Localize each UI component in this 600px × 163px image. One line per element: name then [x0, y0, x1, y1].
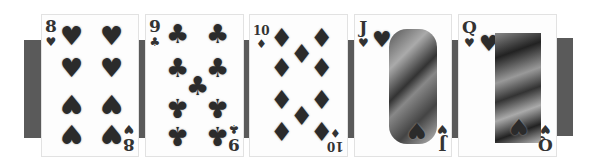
heart-icon: ♥	[100, 91, 123, 117]
card-jack-hearts: J♥ ♥ ♥ J♥	[354, 14, 452, 157]
diamond-icon: ♦	[270, 55, 293, 81]
club-icon: ♣	[166, 95, 189, 121]
club-icon: ♣	[166, 123, 189, 149]
card-8-hearts: 8♥ ♥ ♥ ♥ ♥ ♥ ♥ ♥ ♥ 8♥	[41, 14, 139, 157]
club-icon: ♣	[206, 21, 229, 47]
diamond-icon: ♦	[310, 87, 333, 113]
diamond-icon: ♦	[270, 119, 293, 145]
card-9-clubs: 9♣ ♣ ♣ ♣ ♣ ♣ ♣ ♣ ♣ ♣ 9♣	[145, 14, 244, 157]
card-index-top: 8♥	[45, 18, 57, 48]
card-index-bottom: 10♦	[327, 127, 344, 152]
diamond-icon: ♦	[310, 55, 333, 81]
card-index-bottom: J♥	[437, 123, 448, 153]
card-index-top: Q♥	[462, 19, 477, 49]
heart-icon: ♥	[509, 115, 529, 137]
card-index-bottom: Q♥	[538, 123, 553, 153]
club-icon: ♣	[206, 123, 229, 149]
heart-icon: ♥	[60, 91, 83, 117]
heart-icon: ♥	[100, 23, 123, 49]
club-icon: ♣	[166, 21, 189, 47]
heart-icon: ♥	[100, 121, 123, 147]
club-icon: ♣	[206, 55, 229, 81]
heart-icon: ♥	[407, 119, 427, 141]
card-10-diamonds: 10♦ ♦ ♦ ♦ ♦ ♦ ♦ ♦ ♦ ♦ ♦ 10♦	[249, 14, 348, 157]
card-index-top: 10♦	[253, 25, 270, 50]
card-edge-bar	[557, 38, 573, 136]
diamond-icon: ♦	[310, 25, 333, 51]
heart-icon: ♥	[100, 55, 123, 81]
heart-icon: ♥	[60, 121, 83, 147]
card-queen-hearts: Q♥ ♥ ♥ Q♥	[458, 14, 557, 157]
card-index-bottom: 9♣	[228, 123, 240, 153]
heart-icon: ♥	[60, 23, 83, 49]
card-index-top: 9♣	[149, 18, 161, 48]
card-index-bottom: 8♥	[123, 123, 135, 153]
card-index-top: J♥	[358, 19, 369, 49]
club-icon: ♣	[206, 95, 229, 121]
heart-icon: ♥	[60, 55, 83, 81]
